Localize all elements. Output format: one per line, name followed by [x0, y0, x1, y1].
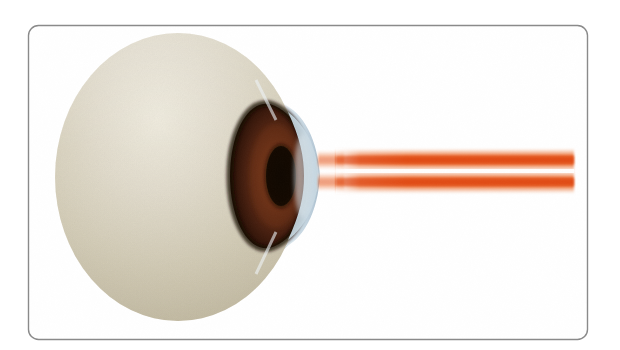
eye-diagram-canvas	[0, 0, 620, 350]
print-texture-overlay	[29, 26, 587, 339]
eye-illustration-figure: Human eye with incoming light rays Incid…	[0, 0, 620, 350]
